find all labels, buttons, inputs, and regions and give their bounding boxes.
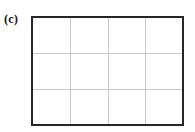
plot-frame: [31, 16, 184, 126]
plot-area: [33, 18, 182, 124]
data-series-layer: [33, 18, 182, 124]
figure-panel: (c): [0, 0, 195, 132]
panel-label: (c): [4, 10, 30, 28]
